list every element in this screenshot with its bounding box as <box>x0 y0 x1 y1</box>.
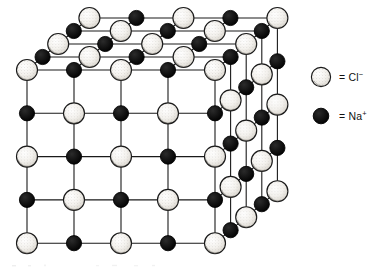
sodium-sphere-body <box>192 36 207 51</box>
sodium-sphere-body <box>239 80 254 95</box>
chloride-ion <box>111 60 132 81</box>
sodium-sphere-body <box>239 166 254 181</box>
chloride-ion <box>236 207 257 228</box>
sodium-ion <box>239 80 254 95</box>
sodium-sphere-body <box>19 106 34 121</box>
chloride-ion <box>251 150 272 171</box>
sodium-sphere-body <box>223 10 238 25</box>
chloride-ion <box>17 233 38 254</box>
sodium-ion <box>129 49 144 64</box>
sodium-ion <box>113 192 128 207</box>
ion-spheres <box>17 8 288 254</box>
chloride-ion <box>158 189 179 210</box>
chloride-ion <box>17 146 38 167</box>
legend-label-sodium: = Na+ <box>339 110 367 122</box>
chloride-ion <box>173 47 194 68</box>
nacl-lattice-figure: = Cl− = Na+ <box>0 0 386 274</box>
sodium-ion <box>223 49 238 64</box>
chloride-ion <box>48 34 69 55</box>
sodium-sphere-body <box>254 197 269 212</box>
legend: = Cl− = Na+ <box>310 62 386 140</box>
sodium-ion <box>223 10 238 25</box>
legend-label-chloride: = Cl− <box>339 71 363 83</box>
legend-species-sodium: Na <box>348 110 362 122</box>
sodium-sphere-body <box>113 192 128 207</box>
sodium-sphere-body <box>270 54 285 69</box>
legend-charge-chloride: − <box>359 70 364 79</box>
sodium-ion <box>239 166 254 181</box>
sodium-ion-icon <box>310 105 332 127</box>
sodium-ion <box>223 136 238 151</box>
sodium-ion <box>207 192 222 207</box>
sodium-sphere-body <box>129 49 144 64</box>
chloride-ion <box>111 146 132 167</box>
sodium-sphere-body <box>98 36 113 51</box>
legend-item-chloride: = Cl− <box>310 62 386 92</box>
sodium-ion <box>129 10 144 25</box>
chloride-ion <box>220 176 241 197</box>
sodium-ion <box>160 23 175 38</box>
sodium-ion <box>192 36 207 51</box>
chloride-ion <box>173 8 194 29</box>
chloride-ion <box>17 60 38 81</box>
sodium-ion <box>98 36 113 51</box>
chloride-ion <box>220 90 241 111</box>
sodium-sphere-body <box>66 62 81 77</box>
chloride-ion <box>251 64 272 85</box>
sodium-ion <box>35 49 50 64</box>
sodium-sphere-body <box>223 49 238 64</box>
chloride-ion <box>205 233 226 254</box>
sodium-ion <box>270 54 285 69</box>
sodium-ion <box>270 140 285 155</box>
chloride-ion <box>64 189 85 210</box>
sodium-ion <box>160 236 175 251</box>
legend-equals-chloride: = <box>339 71 345 83</box>
sodium-sphere-body <box>160 23 175 38</box>
sodium-sphere-body <box>113 106 128 121</box>
sodium-sphere-body <box>66 23 81 38</box>
sodium-ion <box>66 23 81 38</box>
chloride-ion <box>79 47 100 68</box>
sodium-ion <box>66 149 81 164</box>
sodium-ion <box>207 106 222 121</box>
chloride-ion <box>204 21 225 42</box>
chloride-ion <box>205 146 226 167</box>
sodium-ion <box>254 23 269 38</box>
sodium-sphere-body <box>270 140 285 155</box>
sodium-sphere-body <box>254 23 269 38</box>
sodium-sphere-body <box>160 149 175 164</box>
chloride-ion <box>267 8 288 29</box>
sodium-sphere-body <box>207 192 222 207</box>
sodium-ion <box>254 197 269 212</box>
sodium-ion <box>160 62 175 77</box>
legend-item-sodium: = Na+ <box>310 101 386 131</box>
sodium-ion <box>19 192 34 207</box>
sodium-sphere-body <box>66 149 81 164</box>
legend-equals-sodium: = <box>339 110 345 122</box>
chloride-ion <box>79 8 100 29</box>
chloride-ion <box>158 103 179 124</box>
sodium-ion <box>113 106 128 121</box>
chloride-ion <box>110 21 131 42</box>
chloride-ion <box>205 60 226 81</box>
sodium-sphere-body <box>66 236 81 251</box>
chloride-ion <box>267 94 288 115</box>
sodium-ion <box>66 236 81 251</box>
sodium-sphere-body <box>223 223 238 238</box>
sodium-ion <box>66 62 81 77</box>
sodium-sphere-body <box>207 106 222 121</box>
chloride-ion <box>111 233 132 254</box>
sodium-sphere-body <box>160 236 175 251</box>
chloride-ion-icon <box>310 66 332 88</box>
chloride-ion <box>267 181 288 202</box>
sodium-sphere-body <box>223 136 238 151</box>
sodium-ion <box>160 149 175 164</box>
sodium-sphere-body <box>35 49 50 64</box>
chloride-ion <box>236 120 257 141</box>
sodium-ion <box>223 223 238 238</box>
legend-species-chloride: Cl <box>348 71 358 83</box>
chloride-ion <box>142 34 163 55</box>
sodium-sphere-body <box>129 10 144 25</box>
sodium-ion <box>254 110 269 125</box>
sodium-sphere-body <box>254 110 269 125</box>
